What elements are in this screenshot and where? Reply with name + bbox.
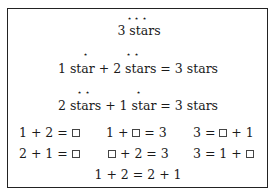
one-star-icon: ⋆ xyxy=(136,89,141,97)
blank-box xyxy=(246,150,254,158)
blank-box xyxy=(108,150,116,158)
fill-in-equation: 1 + = 3 xyxy=(106,126,167,140)
blank-box xyxy=(72,129,80,137)
fill-in-equation: 3 = + 1 xyxy=(193,126,254,140)
equation-2-plus-1: 2 stars + 1 star = 3 stars xyxy=(58,99,218,113)
three-stars-label: 3 stars xyxy=(117,24,160,38)
fill-in-equation: 2 + 1 = xyxy=(19,147,80,161)
two-stars-icon: ⋆ ⋆ xyxy=(126,51,139,59)
three-stars-icon: ⋆ ⋆ ⋆ xyxy=(127,15,147,23)
commutative-equation: 1 + 2 = 2 + 1 xyxy=(94,168,181,182)
blank-box xyxy=(72,150,80,158)
fill-in-equation: + 2 = 3 xyxy=(108,147,169,161)
equation-1-plus-2: 1 star + 2 stars = 3 stars xyxy=(58,62,218,76)
two-stars-icon: ⋆ ⋆ xyxy=(77,89,90,97)
fill-in-equation: 3 = 1 + xyxy=(193,147,254,161)
one-star-icon: ⋆ xyxy=(83,51,88,59)
fill-in-equation: 1 + 2 = xyxy=(19,126,80,140)
